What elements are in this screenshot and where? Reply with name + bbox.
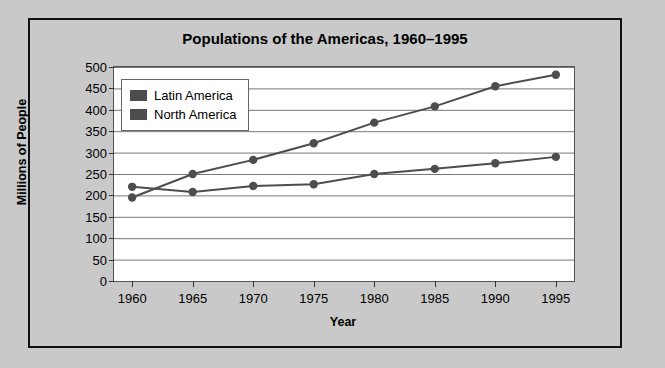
y-tick-mark [109, 153, 114, 154]
y-tick-mark [109, 238, 114, 239]
y-tick-label: 450 [61, 81, 107, 96]
chart-title: Populations of the Americas, 1960–1995 [28, 30, 622, 47]
y-tick-label: 500 [61, 60, 107, 75]
y-axis-title: Millions of People [15, 92, 29, 212]
legend-item: North America [130, 105, 236, 124]
chart-figure: Populations of the Americas, 1960–1995 M… [0, 0, 665, 368]
y-tick-mark [109, 195, 114, 196]
x-tick-label: 1990 [481, 291, 510, 306]
legend-label: North America [154, 107, 236, 122]
y-tick-mark [109, 110, 114, 111]
x-tick-label: 1995 [541, 291, 570, 306]
y-tick-mark [109, 260, 114, 261]
x-tick-mark [556, 281, 557, 287]
plot-area: 050100150200250300350400450500 196019651… [113, 66, 575, 282]
y-tick-mark [109, 281, 114, 282]
x-tick-label: 1985 [420, 291, 449, 306]
data-point [249, 156, 257, 164]
x-tick-mark [495, 281, 496, 287]
y-tick-label: 100 [61, 231, 107, 246]
data-point [128, 193, 136, 201]
y-tick-label: 300 [61, 145, 107, 160]
x-tick-label: 1970 [239, 291, 268, 306]
x-tick-mark [374, 281, 375, 287]
data-point [188, 170, 196, 178]
y-tick-label: 250 [61, 167, 107, 182]
data-point [310, 180, 318, 188]
x-tick-mark [435, 281, 436, 287]
data-point [552, 71, 560, 79]
data-point [491, 82, 499, 90]
legend-swatch-icon [130, 90, 147, 101]
x-tick-mark [314, 281, 315, 287]
y-tick-label: 50 [61, 252, 107, 267]
x-tick-label: 1975 [299, 291, 328, 306]
x-tick-mark [253, 281, 254, 287]
data-point [310, 139, 318, 147]
y-tick-label: 200 [61, 188, 107, 203]
data-point [370, 170, 378, 178]
legend-swatch-icon [130, 109, 147, 120]
data-point [552, 153, 560, 161]
x-tick-mark [193, 281, 194, 287]
data-point [431, 165, 439, 173]
x-tick-label: 1980 [360, 291, 389, 306]
data-point [370, 118, 378, 126]
y-tick-mark [109, 88, 114, 89]
data-point [188, 188, 196, 196]
chart-legend: Latin AmericaNorth America [121, 79, 249, 131]
y-tick-mark [109, 67, 114, 68]
x-tick-mark [132, 281, 133, 287]
y-tick-label: 0 [61, 274, 107, 289]
legend-item: Latin America [130, 86, 236, 105]
data-point [128, 183, 136, 191]
legend-label: Latin America [154, 88, 233, 103]
x-tick-label: 1965 [178, 291, 207, 306]
y-tick-label: 150 [61, 209, 107, 224]
y-tick-mark [109, 131, 114, 132]
data-point [431, 102, 439, 110]
y-tick-label: 350 [61, 124, 107, 139]
x-tick-label: 1960 [118, 291, 147, 306]
y-tick-mark [109, 174, 114, 175]
y-tick-label: 400 [61, 102, 107, 117]
data-point [249, 182, 257, 190]
x-axis-title: Year [113, 315, 573, 329]
data-point [491, 159, 499, 167]
y-tick-mark [109, 217, 114, 218]
